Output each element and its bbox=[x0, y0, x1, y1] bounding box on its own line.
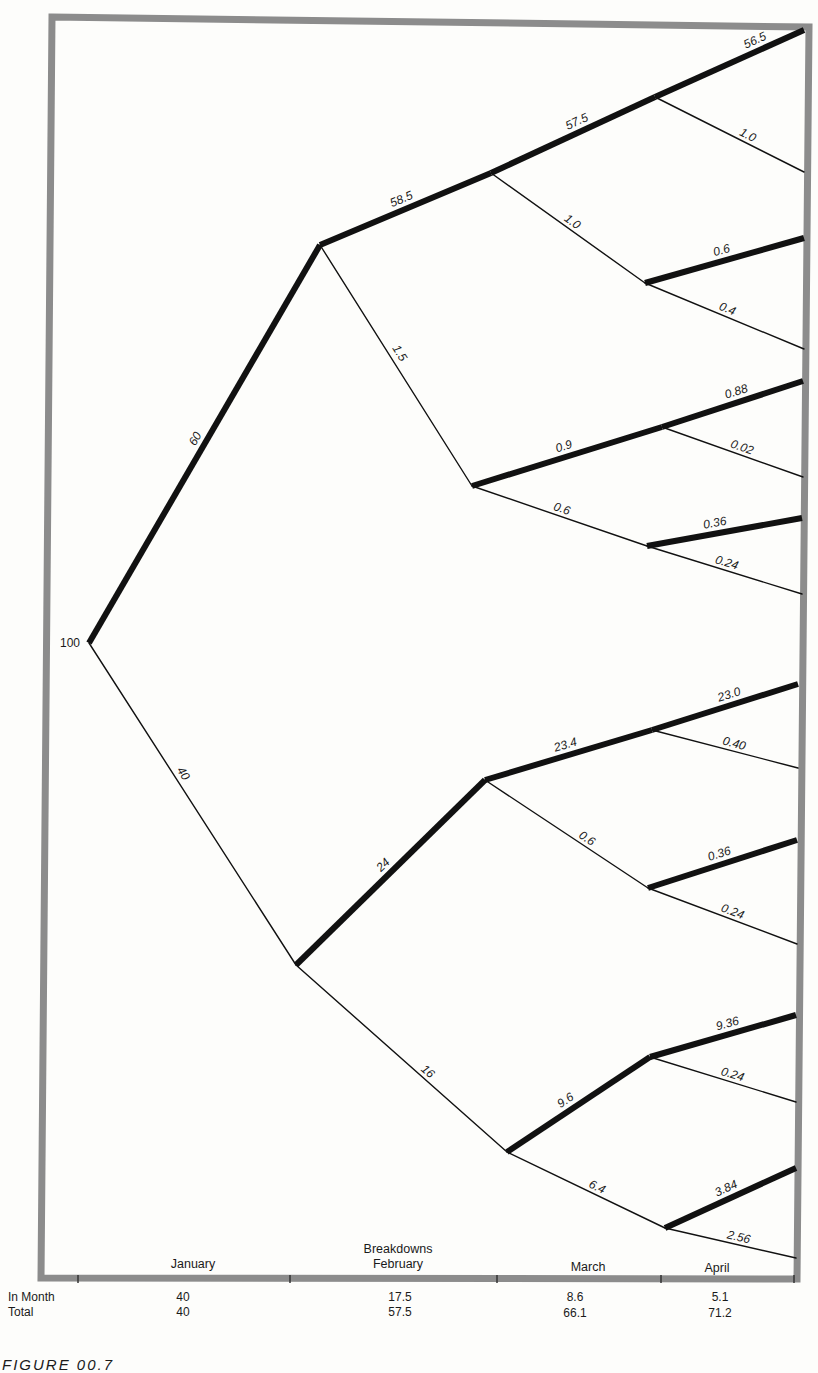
edge-value-label: 0.24 bbox=[714, 552, 741, 572]
cell-january: 40 bbox=[176, 1305, 189, 1320]
tree-edge-thin bbox=[472, 486, 647, 546]
tree-edge-thin bbox=[320, 245, 472, 486]
tree-edge-bold bbox=[89, 245, 320, 643]
cell-january: 40 bbox=[176, 1290, 189, 1305]
tree-edge-thin bbox=[645, 283, 804, 349]
cell-february: 57.5 bbox=[388, 1305, 411, 1320]
breakdowns-summary-table: In Month 40 17.5 8.6 5.1 Total 40 57.5 6… bbox=[0, 1290, 818, 1320]
tree-edge-bold bbox=[320, 173, 491, 245]
edge-value-label: 0.6 bbox=[552, 499, 573, 518]
tree-edge-labels: 604058.51.557.51.056.51.00.60.40.90.60.8… bbox=[174, 29, 769, 1246]
tree-edge-thin bbox=[485, 780, 648, 888]
edge-value-label: 0.4 bbox=[717, 299, 738, 318]
cell-april: 5.1 bbox=[712, 1290, 729, 1305]
edge-value-label: 0.36 bbox=[702, 514, 728, 532]
month-label-february: February bbox=[373, 1257, 424, 1271]
edge-value-label: 0.40 bbox=[721, 734, 747, 754]
row-label: Total bbox=[8, 1305, 33, 1320]
root-value-label: 100 bbox=[60, 636, 80, 650]
tree-edge-thin bbox=[89, 643, 296, 965]
tree-edge-bold bbox=[491, 97, 655, 173]
edge-value-label: 1.0 bbox=[737, 125, 758, 145]
tree-edge-thin bbox=[296, 965, 507, 1152]
table-row-in-month: In Month 40 17.5 8.6 5.1 bbox=[0, 1290, 818, 1305]
tree-edge-bold bbox=[665, 1168, 796, 1228]
edge-value-label: 6.4 bbox=[587, 1177, 608, 1197]
edge-value-label: 16 bbox=[418, 1062, 438, 1082]
month-label-april: April bbox=[704, 1261, 729, 1275]
edge-value-label: 0.6 bbox=[576, 828, 598, 849]
edge-value-label: 0.02 bbox=[729, 437, 756, 458]
tree-edge-thin bbox=[662, 427, 803, 477]
row-label: In Month bbox=[8, 1290, 55, 1305]
tree-edge-thin bbox=[648, 888, 797, 944]
edge-value-label: 0.24 bbox=[719, 1064, 746, 1084]
month-label-march: March bbox=[571, 1260, 606, 1274]
edge-value-label: 0.24 bbox=[719, 901, 746, 922]
tree-edge-bold bbox=[472, 427, 662, 486]
edge-value-label: 2.56 bbox=[725, 1227, 752, 1246]
tree-edge-thin bbox=[655, 97, 804, 172]
tree-edge-bold bbox=[507, 1057, 650, 1152]
table-row-total: Total 40 57.5 66.1 71.2 bbox=[0, 1305, 818, 1320]
tree-edge-thin bbox=[647, 546, 802, 594]
month-label-january: January bbox=[171, 1257, 216, 1271]
cell-april: 71.2 bbox=[708, 1306, 731, 1321]
tree-edge-thin bbox=[491, 173, 645, 283]
tree-edges bbox=[89, 30, 804, 1258]
cell-march: 8.6 bbox=[567, 1290, 584, 1305]
cell-february: 17.5 bbox=[388, 1290, 411, 1305]
tree-edge-bold bbox=[296, 780, 485, 965]
figure-caption: FIGURE 00.7 bbox=[2, 1356, 114, 1373]
tree-edge-bold bbox=[655, 30, 804, 97]
edge-value-label: 1.0 bbox=[562, 211, 584, 232]
cell-march: 66.1 bbox=[563, 1306, 586, 1321]
axis-header-breakdowns: Breakdowns bbox=[364, 1242, 433, 1256]
tree-edge-thin bbox=[507, 1152, 665, 1228]
figure-frame bbox=[41, 17, 809, 1279]
